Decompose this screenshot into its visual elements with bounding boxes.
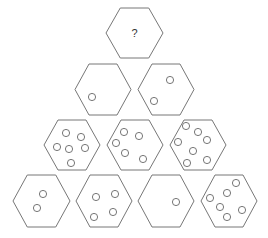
hexagon-r2-1 (75, 64, 131, 115)
hexagon-outline (13, 175, 70, 227)
hexagon-outline (76, 175, 132, 227)
hexagon-outline (201, 175, 257, 227)
hexagon-outline (138, 64, 194, 115)
hexagon-r4-2 (76, 175, 132, 227)
hexagon-outline (107, 120, 163, 170)
hexagon-outline (75, 64, 131, 115)
hexagon-outline (170, 120, 226, 170)
hexagon-r3-2 (107, 120, 163, 170)
question-mark: ? (131, 27, 137, 39)
hexagon-pyramid-puzzle: ? (0, 0, 268, 238)
hexagon-top: ? (106, 8, 163, 58)
hexagon-outline (138, 175, 194, 227)
hexagon-r4-4 (201, 175, 257, 227)
hexagon-r3-3 (170, 120, 226, 170)
hexagon-r4-3 (138, 175, 194, 227)
hexagon-outline (44, 120, 100, 170)
hexagon-r4-1 (13, 175, 70, 227)
hexagon-r3-1 (44, 120, 100, 170)
hexagon-r2-2 (138, 64, 194, 115)
